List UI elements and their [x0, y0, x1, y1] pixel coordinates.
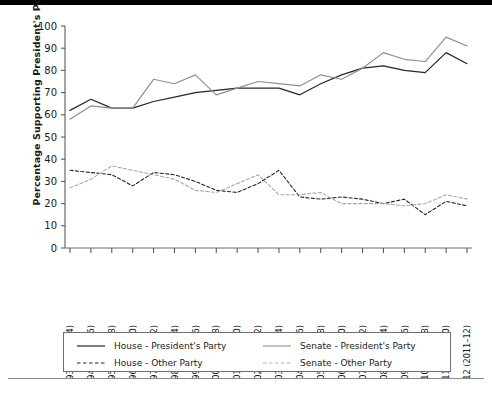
series-line — [70, 170, 467, 214]
solid-gray-line-icon — [262, 341, 292, 351]
dashed-dark-line-icon — [76, 358, 106, 368]
series-line — [70, 166, 467, 206]
y-axis-tick-label: 0 — [51, 243, 57, 254]
line-chart-plot: 010203040506070809010093 (1973–74)94 (19… — [0, 5, 492, 378]
chart-legend: House - President's Party House - Other … — [63, 332, 451, 372]
legend-item-house-presidents-party: House - President's Party — [76, 338, 226, 354]
y-axis-tick-label: 30 — [44, 176, 57, 187]
y-axis-tick-label: 10 — [44, 220, 57, 231]
series-line — [70, 37, 467, 119]
legend-label: Senate - Other Party — [300, 358, 392, 368]
legend-item-senate-presidents-party: Senate - President's Party — [262, 338, 416, 354]
x-axis-tick-label: 112 (2011–12) — [462, 325, 472, 378]
y-axis-tick-label: 80 — [44, 65, 57, 76]
series-line — [70, 53, 467, 111]
y-axis-tick-label: 20 — [44, 198, 57, 209]
y-axis-tick-label: 100 — [38, 21, 57, 32]
legend-label: House - President's Party — [114, 341, 226, 351]
solid-dark-line-icon — [76, 341, 106, 351]
y-axis-tick-label: 60 — [44, 109, 57, 120]
chart-figure: Percentage Supporting President's Positi… — [0, 5, 492, 378]
y-axis-tick-label: 70 — [44, 87, 57, 98]
y-axis-tick-label: 90 — [44, 43, 57, 54]
y-axis-tick-label: 50 — [44, 132, 57, 143]
legend-item-senate-other-party: Senate - Other Party — [262, 355, 392, 371]
legend-item-house-other-party: House - Other Party — [76, 355, 203, 371]
dashed-gray-line-icon — [262, 358, 292, 368]
legend-label: Senate - President's Party — [300, 341, 416, 351]
bottom-rule — [8, 378, 484, 379]
legend-label: House - Other Party — [114, 358, 203, 368]
y-axis-tick-label: 40 — [44, 154, 57, 165]
